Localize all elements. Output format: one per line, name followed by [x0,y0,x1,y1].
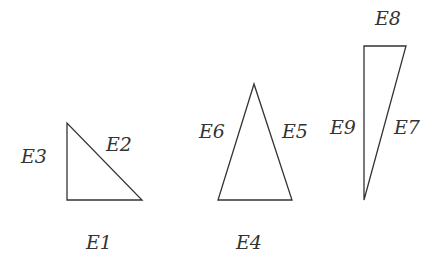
edge-label-e1: E1 [85,231,112,253]
triangle-2 [218,84,292,200]
triangle-diagram: E1 E2 E3 E4 E5 E6 E7 E8 E9 [0,0,445,269]
edge-label-e9: E9 [329,116,356,138]
edge-label-e2: E2 [105,133,132,155]
edge-label-e8: E8 [374,7,401,29]
edge-label-e7: E7 [393,116,421,138]
edge-label-e4: E4 [235,231,262,253]
diagram-svg: E1 E2 E3 E4 E5 E6 E7 E8 E9 [0,0,445,269]
edge-label-e3: E3 [20,145,47,167]
edge-label-e5: E5 [281,120,308,142]
edge-label-e6: E6 [198,120,225,142]
